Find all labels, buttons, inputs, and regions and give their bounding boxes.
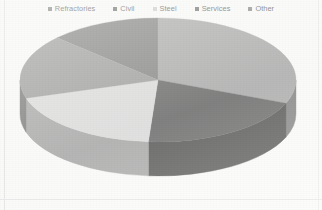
- pie-svg: [0, 0, 322, 210]
- pie-plot-area: [0, 0, 322, 210]
- pie-chart-figure: Refractories Civil Steel Services Other: [0, 0, 322, 210]
